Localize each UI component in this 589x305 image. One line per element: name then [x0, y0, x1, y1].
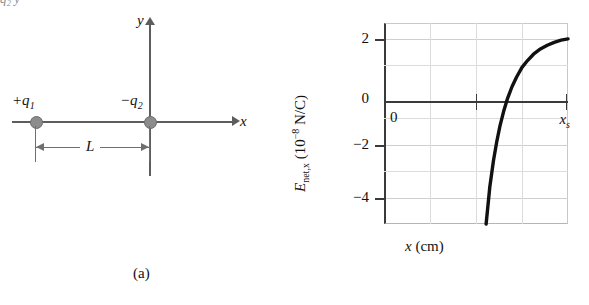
charge-q2-subscript: 2	[138, 100, 143, 111]
y-axis-title-unit: (10	[292, 139, 308, 163]
y-axis-label-0: 0	[362, 90, 370, 107]
y-axis-title-subscript: net,x	[300, 163, 311, 183]
panel-a-caption: (a)	[133, 265, 150, 282]
x-axis-title-unit: (cm)	[412, 238, 444, 254]
charge-q2-label: −q2	[120, 92, 143, 111]
y-axis-label-2: 2	[362, 30, 370, 47]
diagram-y-axis-label: y	[137, 12, 144, 29]
y-axis-title: Enet,x (10−8 N/C)	[290, 95, 311, 192]
plot-area: 2 0 −2 −4 0 xs	[384, 23, 568, 224]
y-axis-title-unit2: N/C)	[292, 95, 308, 129]
x-axis-title-var: x	[405, 238, 412, 254]
dimension-arrow-left-icon	[36, 143, 44, 151]
y-axis-title-exponent: −8	[290, 129, 301, 140]
x-axis-title: x (cm)	[405, 238, 444, 255]
diagram-x-axis	[12, 121, 234, 123]
positive-charge-q1-dot	[30, 116, 43, 129]
figure-container: q₂ y x y +q1 −q2 L (a)	[0, 0, 589, 305]
y-axis-label-neg4: −4	[353, 189, 369, 206]
panel-b-graph: 2 0 −2 −4 0 xs x (cm) Enet,x (10−8 N/C) …	[300, 0, 589, 305]
y-axis-title-var: E	[292, 183, 308, 192]
y-axis-label-neg2: −2	[353, 136, 369, 153]
dimension-extension-right	[149, 126, 150, 162]
charge-q1-symbol: +q	[12, 92, 30, 108]
charge-q1-subscript: 1	[30, 100, 35, 111]
dimension-label-L: L	[80, 138, 100, 155]
y-axis-arrowhead-icon	[145, 17, 155, 25]
charge-q2-symbol: −q	[120, 92, 138, 108]
charge-q1-label: +q1	[12, 92, 35, 111]
field-curve	[384, 23, 568, 224]
panel-a-charge-diagram: x y +q1 −q2 L (a)	[0, 0, 300, 305]
negative-charge-q2-dot	[144, 116, 157, 129]
x-axis-arrowhead-icon	[232, 116, 240, 126]
diagram-x-axis-label: x	[240, 113, 247, 130]
dimension-arrow-right-icon	[141, 143, 149, 151]
